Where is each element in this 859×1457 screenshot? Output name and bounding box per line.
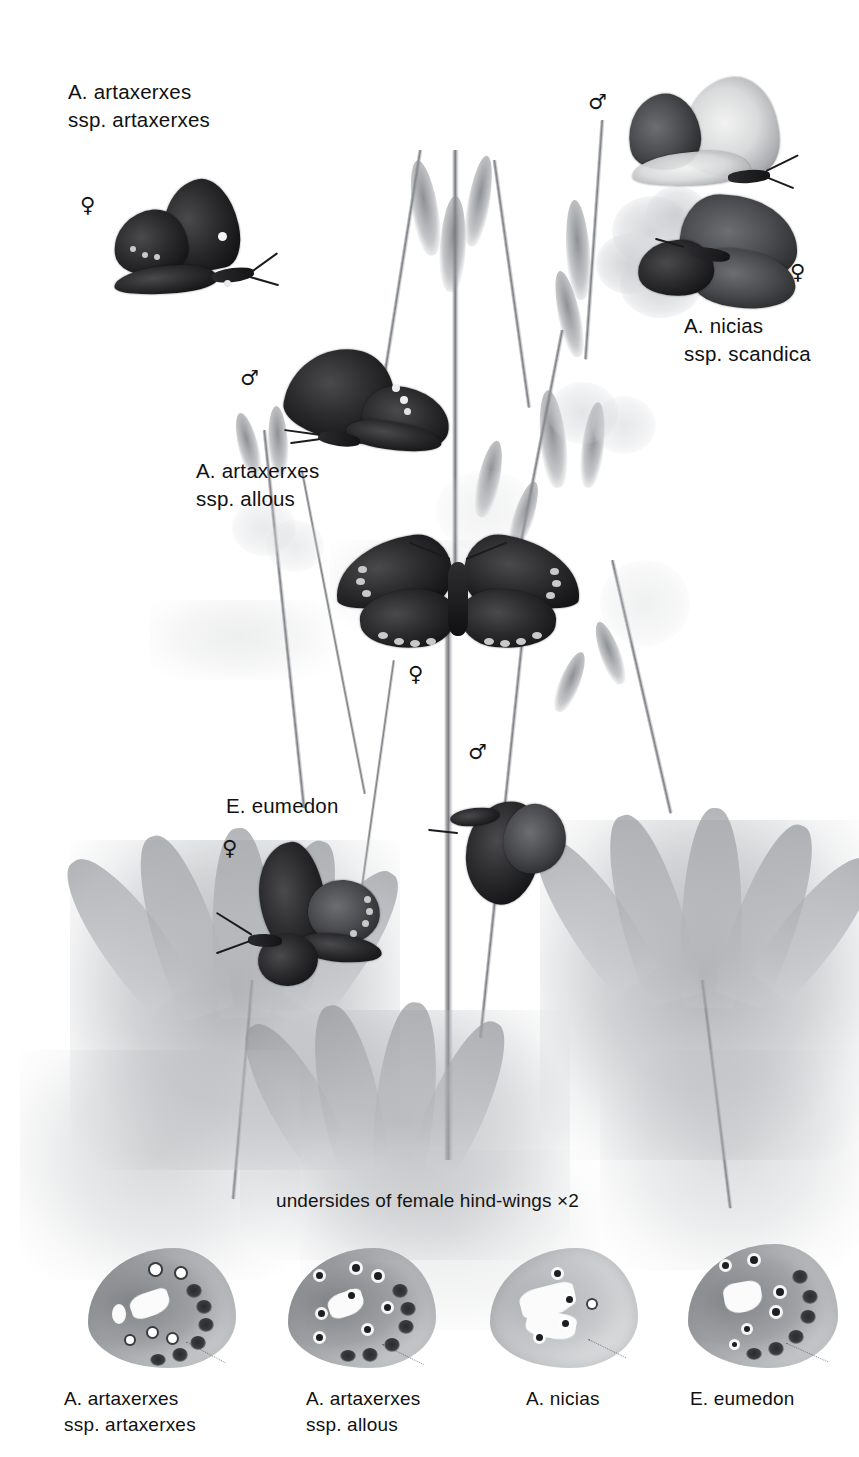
sex-symbol-female-artaxerxes-artaxerxes: ♀ — [80, 195, 95, 216]
sex-symbol-male-eumedon: ♂ — [468, 742, 487, 763]
underside-label-2-line2: ssp. allous — [306, 1412, 398, 1437]
underside-label-2-line1: A. artaxerxes — [306, 1386, 421, 1411]
label-artaxerxes-allous-line1: A. artaxerxes — [196, 457, 319, 484]
sex-symbol-female-center: ♀ — [408, 664, 423, 685]
butterfly-eumedon-male — [450, 790, 580, 910]
antenna — [249, 252, 278, 274]
label-nicias-scandica-line2: ssp. scandica — [684, 340, 811, 367]
antenna — [766, 176, 795, 189]
label-artaxerxes-artaxerxes-line2: ssp. artaxerxes — [68, 106, 210, 133]
abdomen — [448, 562, 468, 636]
butterfly-center-female-spread — [334, 528, 584, 658]
butterfly-nicias-scandica-male — [616, 78, 806, 208]
undersides-caption: undersides of female hind-wings ×2 — [276, 1190, 579, 1212]
sex-symbol-male-nicias: ♂ — [588, 92, 607, 113]
label-artaxerxes-artaxerxes-line1: A. artaxerxes — [68, 78, 191, 105]
illustration-plate: A. artaxerxes ssp. artaxerxes ♀ ♂ ♀ A. n… — [0, 0, 859, 1457]
label-eumedon-line1: E. eumedon — [226, 792, 339, 819]
sex-symbol-female-nicias: ♀ — [790, 262, 805, 283]
underside-label-3-line1: A. nicias — [526, 1386, 600, 1411]
underside-label-1-line1: A. artaxerxes — [64, 1386, 179, 1411]
antenna — [290, 438, 320, 444]
sex-symbol-female-eumedon: ♀ — [222, 838, 237, 859]
butterfly-eumedon-female — [236, 842, 396, 1002]
butterfly-artaxerxes-artaxerxes-female — [108, 180, 268, 300]
underside-label-1-line2: ssp. artaxerxes — [64, 1412, 196, 1437]
label-artaxerxes-allous-line2: ssp. allous — [196, 485, 295, 512]
thorax — [248, 933, 282, 947]
sex-symbol-male-allous: ♂ — [240, 368, 259, 389]
butterfly-nicias-scandica-female — [638, 196, 808, 322]
underside-label-4-line1: E. eumedon — [690, 1386, 794, 1411]
label-nicias-scandica-line1: A. nicias — [684, 312, 763, 339]
antenna — [250, 276, 279, 286]
butterfly-artaxerxes-allous-male — [276, 348, 456, 468]
